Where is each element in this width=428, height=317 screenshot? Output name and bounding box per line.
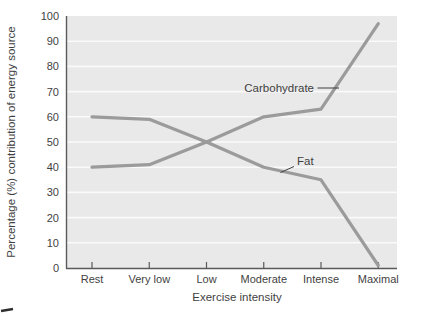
y-tick-label: 80 <box>47 60 59 72</box>
y-tick-label: 60 <box>47 111 59 123</box>
x-tick-label: Rest <box>81 273 104 285</box>
y-tick-labels: 100 90 80 70 60 50 40 30 20 10 0 <box>41 10 59 274</box>
y-tick-label: 100 <box>41 10 59 22</box>
y-tick-label: 10 <box>47 237 59 249</box>
y-tick-label: 0 <box>53 262 59 274</box>
y-tick-label: 20 <box>47 212 59 224</box>
y-tick-label: 30 <box>47 186 59 198</box>
y-axis-title: Percentage (%) contribution of energy so… <box>5 26 17 257</box>
y-tick-label: 70 <box>47 86 59 98</box>
series-label-carbohydrate: Carbohydrate <box>244 82 314 94</box>
x-tick-label: Maximal <box>358 273 399 285</box>
page-corner-mark <box>1 309 13 311</box>
series-label-fat: Fat <box>297 155 314 167</box>
x-tick-labels: Rest Very low Low Moderate Intense Maxim… <box>81 273 399 285</box>
x-axis-title: Exercise intensity <box>192 291 282 303</box>
y-tick-label: 40 <box>47 161 59 173</box>
x-tick-label: Intense <box>303 273 339 285</box>
y-tick-label: 90 <box>47 35 59 47</box>
y-tick-label: 50 <box>47 136 59 148</box>
x-tick-label: Very low <box>129 273 171 285</box>
x-tick-label: Moderate <box>241 273 287 285</box>
chart-canvas: 100 90 80 70 60 50 40 30 20 10 0 Rest Ve… <box>0 0 428 317</box>
x-tick-label: Low <box>196 273 216 285</box>
